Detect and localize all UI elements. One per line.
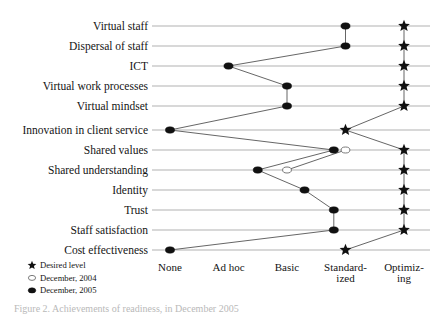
data-point-2-3 — [282, 83, 291, 89]
series-line-0 — [346, 26, 405, 250]
x-tick-label-3-cont: ized — [336, 272, 355, 284]
data-point-2-2 — [224, 63, 233, 69]
data-point-0-4 — [398, 100, 410, 111]
data-point-0-5 — [340, 124, 352, 135]
x-tick-label-1: Ad hoc — [212, 261, 244, 273]
row-label-11: Cost effectiveness — [64, 244, 148, 256]
row-label-4: Virtual mindset — [77, 100, 149, 112]
data-point-0-11 — [340, 244, 352, 255]
legend-marker-filled-circle — [28, 288, 36, 293]
legend-marker-open-circle — [28, 275, 35, 280]
x-axis-tick-labels-group: NoneAd hocBasicStandard-izedOptimiz-ing — [158, 261, 424, 284]
data-point-2-7 — [253, 167, 262, 173]
row-label-7: Shared understanding — [48, 164, 148, 177]
maturity-scatter-chart: Virtual staffDispersal of staffICTVirtua… — [0, 0, 448, 315]
chart-legend: Desired levelDecember, 2004December, 200… — [28, 260, 98, 295]
x-tick-label-0: None — [158, 261, 182, 273]
x-tick-label-2: Basic — [275, 261, 300, 273]
legend-label-0: Desired level — [40, 260, 86, 270]
legend-marker-star — [28, 261, 37, 269]
chart-container: Virtual staffDispersal of staffICTVirtua… — [0, 0, 448, 315]
row-label-6: Shared values — [84, 144, 149, 156]
row-labels-group: Virtual staffDispersal of staffICTVirtua… — [22, 20, 148, 256]
row-label-1: Dispersal of staff — [69, 40, 148, 53]
row-label-0: Virtual staff — [93, 20, 148, 32]
gridlines-group — [152, 26, 430, 250]
row-label-10: Staff satisfaction — [71, 224, 149, 236]
data-point-2-6 — [329, 147, 338, 153]
data-point-2-9 — [329, 207, 338, 213]
data-point-2-4 — [282, 103, 291, 109]
figure-caption: Figure 2. Achievements of readiness, in … — [14, 303, 434, 315]
data-point-1-6 — [341, 147, 350, 153]
data-point-1-7 — [283, 167, 292, 173]
x-tick-label-4-cont: ing — [397, 272, 412, 284]
row-label-9: Trust — [124, 204, 149, 216]
data-point-2-10 — [329, 227, 338, 233]
series-line-2 — [170, 26, 346, 250]
legend-label-1: December, 2004 — [40, 273, 97, 283]
data-point-2-1 — [341, 43, 350, 49]
data-point-0-10 — [398, 224, 410, 235]
markers-group — [165, 20, 410, 255]
row-label-2: ICT — [129, 60, 148, 72]
row-label-8: Identity — [112, 184, 148, 197]
data-point-2-0 — [341, 23, 350, 29]
data-point-2-8 — [300, 187, 309, 193]
series-lines-group — [170, 26, 404, 250]
legend-label-2: December, 2005 — [40, 285, 96, 295]
row-label-3: Virtual work processes — [43, 80, 149, 93]
row-label-5: Innovation in client service — [22, 124, 148, 136]
data-point-2-5 — [165, 127, 174, 133]
data-point-2-11 — [165, 247, 174, 253]
